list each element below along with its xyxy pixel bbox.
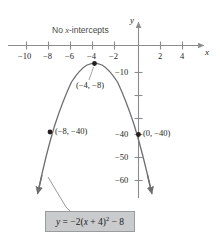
y-tick-label--10: −10 (115, 68, 128, 77)
graph-canvas (0, 0, 220, 238)
curve-arrow-left (38, 175, 43, 194)
left-point (48, 130, 53, 135)
y-tick-label--50: −50 (115, 153, 128, 162)
y-tick-label--60: −60 (115, 176, 128, 185)
vertex-point (92, 61, 97, 66)
vertex-point-label: (−4, −8) (76, 81, 104, 90)
parabola-figure: No x-intercepts x y −10 −8 −6 −4 −2 2 4 … (0, 0, 220, 238)
x-tick-label-4: 4 (180, 52, 184, 61)
x-tick-label--6: −6 (65, 52, 74, 61)
x-tick-label--2: −2 (109, 52, 118, 61)
equation-leader-line (48, 177, 71, 212)
y-axis-label: y (130, 16, 134, 25)
x-axis-label: x (205, 48, 209, 57)
equation-callout-box: y = −2(x + 4)2 − 8 (45, 211, 135, 232)
equation-text: y = −2(x + 4)2 − 8 (56, 217, 124, 227)
vertex-leader-line (89, 67, 94, 80)
y-intercept-point (136, 132, 141, 137)
x-tick-label--8: −8 (43, 52, 52, 61)
y-intercept-label: (0, −40) (143, 129, 170, 138)
curve-arrow-right (148, 175, 153, 194)
no-x-intercepts-note: No x-intercepts (52, 26, 109, 35)
x-tick-label--10: −10 (18, 52, 31, 61)
left-point-label: (−8, −40) (55, 127, 87, 136)
x-tick-label-2: 2 (158, 52, 162, 61)
x-tick-label--4: −4 (87, 52, 96, 61)
y-tick-label--40: −40 (115, 130, 128, 139)
